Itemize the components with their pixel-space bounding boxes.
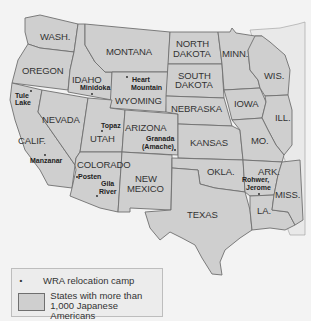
- camp-dot-icon: [91, 93, 93, 95]
- svg-text:Tule: Tule: [15, 92, 29, 99]
- label-oregon: OREGON: [22, 65, 64, 76]
- camp-dot-icon: [96, 195, 98, 197]
- map-legend: • WRA relocation camp States with more t…: [11, 268, 163, 317]
- camp-dot-icon: [101, 130, 103, 132]
- label-nevada: NEVADA: [42, 114, 81, 125]
- svg-text:Minidoka: Minidoka: [80, 84, 110, 91]
- label-iowa: IOWA: [234, 98, 259, 109]
- svg-text:Jerome: Jerome: [246, 184, 271, 191]
- label-wisconsin: WIS.: [264, 70, 284, 81]
- label-california: CALIF.: [18, 135, 46, 146]
- label-illinois: ILL.: [275, 112, 290, 123]
- label-arizona: COLORADO: [77, 159, 131, 170]
- svg-text:Lake: Lake: [15, 99, 31, 106]
- camp-dot-icon: [126, 76, 128, 78]
- legend-camp-label: WRA relocation camp: [43, 276, 134, 286]
- svg-text:Rohwer,: Rohwer,: [242, 176, 269, 184]
- label-louisiana: LA.: [257, 205, 271, 216]
- camp-dot-icon: [174, 149, 176, 151]
- svg-text:River: River: [99, 188, 117, 195]
- svg-text:Granada: Granada: [146, 135, 175, 142]
- label-wyoming: WYOMING: [115, 95, 162, 106]
- label-south-dakota-2: DAKOTA: [175, 79, 214, 90]
- label-new-mexico-2: MEXICO: [127, 183, 164, 194]
- label-texas: TEXAS: [187, 209, 218, 220]
- svg-text:Gila: Gila: [101, 180, 114, 187]
- camp-dot-icon: [44, 154, 46, 156]
- camp-dot-icon: •: [12, 276, 30, 286]
- svg-text:Posten: Posten: [78, 173, 101, 180]
- legend-states-label: States with more than 1,000 Japanese Ame…: [50, 291, 162, 321]
- label-montana: MONTANA: [106, 46, 153, 57]
- label-utah: UTAH: [90, 133, 115, 144]
- legend-item-states: States with more than 1,000 Japanese Ame…: [12, 291, 162, 321]
- label-colorado: ARIZONA: [125, 122, 167, 133]
- label-north-dakota-2: DAKOTA: [173, 48, 212, 59]
- legend-item-camp: • WRA relocation camp: [12, 276, 134, 286]
- svg-text:Manzanar: Manzanar: [30, 157, 63, 164]
- svg-text:(Amache): (Amache): [142, 143, 174, 151]
- label-missouri: MO.: [251, 135, 269, 146]
- camp-dot-icon: [30, 90, 32, 92]
- label-washington: WASH.: [40, 31, 70, 42]
- label-oklahoma: OKLA.: [207, 166, 235, 177]
- svg-text:Heart: Heart: [132, 76, 151, 83]
- camp-poston: Posten: [76, 173, 101, 180]
- state-swatch-icon: [18, 293, 45, 311]
- label-nebraska: NEBRASKA: [171, 103, 223, 114]
- label-kansas: KANSAS: [190, 137, 228, 148]
- label-mississippi: MISS.: [275, 189, 300, 200]
- svg-text:Topaz: Topaz: [101, 122, 121, 130]
- camp-granada: Granada (Amache): [142, 135, 176, 151]
- svg-text:Mountain: Mountain: [131, 84, 162, 91]
- camp-dot-icon: [258, 193, 260, 195]
- label-minnesota: MINN.: [222, 48, 248, 59]
